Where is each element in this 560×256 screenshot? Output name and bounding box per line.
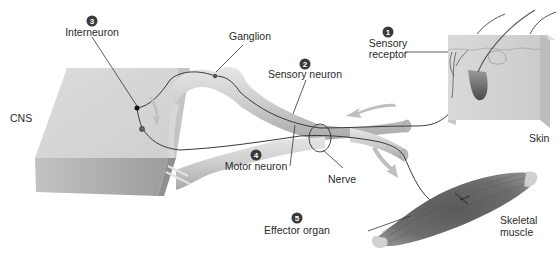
- reflex-arc-diagram: 3 Interneuron Ganglion 2 Sensory neuron …: [0, 0, 560, 256]
- svg-text:Skeletal: Skeletal: [500, 214, 537, 226]
- svg-text:1: 1: [386, 28, 391, 37]
- skin-block: [448, 10, 556, 128]
- cns-label: CNS: [10, 112, 32, 124]
- arrow-inbound-icon: [346, 104, 396, 118]
- svg-text:4: 4: [254, 151, 259, 160]
- nerve-label: Nerve: [328, 173, 356, 185]
- svg-text:muscle: muscle: [500, 226, 533, 238]
- skeletal-muscle-label: Skeletal muscle: [500, 214, 537, 238]
- sensory-receptor-label-line2: receptor: [369, 48, 408, 60]
- cns-block: [35, 68, 190, 196]
- label-step-3: 3 Interneuron: [65, 16, 119, 39]
- svg-text:3: 3: [90, 17, 95, 26]
- ganglion-cell-body: [213, 74, 217, 78]
- ganglion-label: Ganglion: [229, 30, 271, 42]
- effector-organ-label: Effector organ: [264, 224, 330, 236]
- sensory-synapse: [135, 106, 140, 111]
- label-step-2: 2 Sensory neuron: [268, 59, 342, 81]
- motor-synapse: [140, 127, 145, 132]
- label-step-5: 5 Effector organ: [264, 213, 330, 237]
- skin-label: Skin: [529, 132, 550, 144]
- motor-neuron-label: Motor neuron: [225, 160, 288, 172]
- svg-text:5: 5: [295, 214, 300, 223]
- label-step-1: 1 Sensory receptor: [369, 27, 408, 61]
- interneuron-label: Interneuron: [65, 26, 119, 38]
- nerve-bundle: [166, 67, 411, 190]
- sensory-neuron-label: Sensory neuron: [268, 68, 342, 80]
